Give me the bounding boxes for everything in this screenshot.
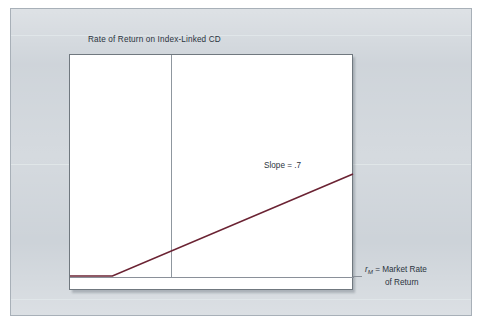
figure-root: Rate of Return on Index-Linked CD Slope … — [0, 0, 486, 334]
axis-label-line2: of Return — [365, 277, 427, 289]
scan-band-bottom — [11, 299, 471, 300]
chart-title: Rate of Return on Index-Linked CD — [88, 35, 221, 44]
scan-band-top — [11, 35, 471, 36]
plot-area — [69, 54, 353, 290]
plot-inner — [70, 55, 352, 289]
payoff-curve-svg — [70, 55, 354, 291]
axis-right-tick — [353, 276, 362, 277]
slope-annotation: Slope = .7 — [264, 161, 301, 170]
figure-paper-panel: Rate of Return on Index-Linked CD Slope … — [10, 8, 472, 316]
axis-label-subscript: M — [368, 268, 373, 275]
axis-label-line1: = Market Rate — [375, 265, 427, 274]
market-rate-axis-label: rM = Market Rate of Return — [365, 264, 427, 289]
payoff-curve-path — [70, 174, 353, 276]
